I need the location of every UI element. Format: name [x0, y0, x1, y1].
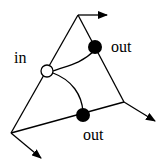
- curve-to-out-top: [53, 50, 95, 71]
- label-out-bottom: out: [83, 126, 104, 143]
- arrow-bottom-left: [11, 133, 41, 158]
- curve-to-out-bottom: [53, 73, 83, 112]
- out-node-bottom: [76, 108, 90, 122]
- out-node-top: [88, 40, 102, 54]
- in-node: [41, 65, 53, 77]
- triangle-diagram: in out out: [0, 0, 166, 168]
- edge-bottom: [11, 102, 124, 133]
- arrow-right: [124, 102, 155, 121]
- label-out-top: out: [111, 38, 132, 55]
- label-in: in: [14, 49, 26, 66]
